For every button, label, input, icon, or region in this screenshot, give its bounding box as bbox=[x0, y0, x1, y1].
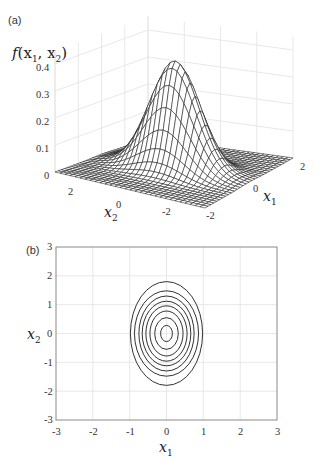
contour-plot-2d bbox=[0, 0, 323, 469]
